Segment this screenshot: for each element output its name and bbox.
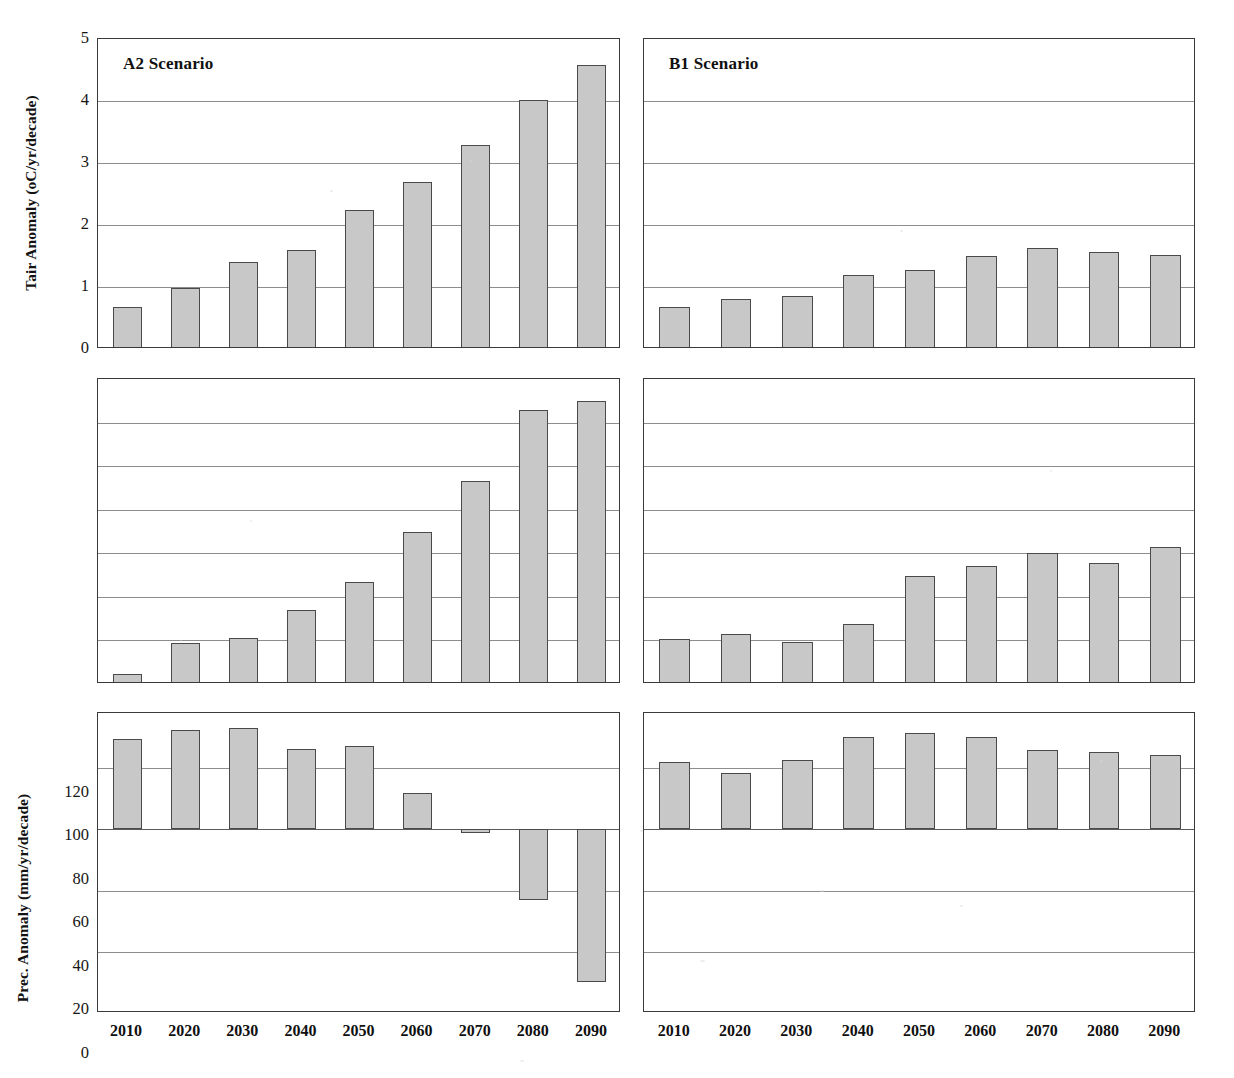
bar <box>721 773 752 829</box>
bar <box>843 275 874 348</box>
bar <box>113 739 142 830</box>
x-tick-label: 2030 <box>226 1022 258 1040</box>
bar <box>287 250 316 348</box>
bar <box>1089 752 1120 829</box>
bar <box>345 746 374 829</box>
bar <box>403 793 432 830</box>
bar-group-npp-b1 <box>644 713 1194 1011</box>
plot-panel-npp-b1 <box>643 712 1195 1012</box>
x-tick-label: 2040 <box>842 1022 874 1040</box>
x-tick-label: 2090 <box>1148 1022 1180 1040</box>
plot-panel-prec-b1 <box>643 378 1195 683</box>
bar <box>966 566 997 683</box>
x-tick-label: 2020 <box>719 1022 751 1040</box>
bar <box>403 532 432 684</box>
y-tick-label-tair: 5 <box>81 30 89 47</box>
bar <box>782 642 813 683</box>
x-tick-label: 2070 <box>459 1022 491 1040</box>
y-tick-label-tair: 2 <box>81 216 89 233</box>
bar <box>171 730 200 829</box>
bar <box>721 299 752 348</box>
bar-group-tair-b1 <box>644 39 1194 347</box>
bar <box>905 733 936 829</box>
bar <box>577 65 606 348</box>
x-tick-label: 2040 <box>284 1022 316 1040</box>
x-axis-ticks-left: 201020202030204020502060207020802090 <box>97 1022 620 1048</box>
bar <box>966 256 997 348</box>
bar <box>1027 553 1058 683</box>
bar <box>345 210 374 349</box>
x-tick-label: 2050 <box>903 1022 935 1040</box>
bar <box>721 634 752 683</box>
bar <box>659 307 690 348</box>
bar <box>519 100 548 348</box>
bar <box>905 576 936 683</box>
bar <box>782 760 813 829</box>
x-tick-label: 2050 <box>343 1022 375 1040</box>
plot-panel-prec-a2 <box>97 378 620 683</box>
bar <box>1150 255 1181 348</box>
scenario-label-b1: B1 Scenario <box>669 54 759 74</box>
bar <box>966 737 997 829</box>
x-tick-label: 2030 <box>780 1022 812 1040</box>
bar <box>1150 547 1181 683</box>
bar <box>171 288 200 348</box>
y-tick-label-tair: 3 <box>81 154 89 171</box>
bar <box>461 829 490 833</box>
x-tick-label: 2070 <box>1026 1022 1058 1040</box>
x-tick-label: 2090 <box>575 1022 607 1040</box>
bar <box>171 643 200 683</box>
bar-group-tair-a2 <box>98 39 619 347</box>
x-axis-ticks-right: 201020202030204020502060207020802090 <box>643 1022 1195 1048</box>
bar-group-prec-a2 <box>98 379 619 682</box>
x-tick-label: 2010 <box>110 1022 142 1040</box>
bar-group-prec-b1 <box>644 379 1194 682</box>
bar <box>229 638 258 683</box>
plot-panel-npp-a2 <box>97 712 620 1012</box>
bar <box>461 145 490 348</box>
bar <box>287 749 316 830</box>
y-tick-label-tair: 0 <box>81 340 89 357</box>
plot-panel-tair-a2 <box>97 38 620 348</box>
bar <box>905 270 936 348</box>
bar <box>577 829 606 982</box>
bar <box>461 481 490 683</box>
figure-canvas: Tair Anomaly (oC/yr/decade) 012345 A2 Sc… <box>0 0 1234 1078</box>
bar <box>1150 755 1181 830</box>
bar <box>843 624 874 683</box>
x-tick-label: 2060 <box>401 1022 433 1040</box>
x-tick-label: 2020 <box>168 1022 200 1040</box>
bar <box>1027 248 1058 348</box>
x-tick-label: 2080 <box>1087 1022 1119 1040</box>
bar <box>519 829 548 899</box>
bar <box>1089 563 1120 683</box>
scenario-label-a2: A2 Scenario <box>123 54 214 74</box>
x-tick-label: 2080 <box>517 1022 549 1040</box>
bar <box>519 410 548 684</box>
bar <box>113 307 142 348</box>
bar <box>229 262 258 348</box>
bar <box>577 401 606 683</box>
bar <box>782 296 813 348</box>
bar <box>403 182 432 348</box>
bar <box>843 737 874 829</box>
y-axis-title-tair: Tair Anomaly (oC/yr/decade) <box>22 38 40 348</box>
y-tick-label-tair: 1 <box>81 278 89 295</box>
bar <box>659 762 690 829</box>
bar <box>345 582 374 683</box>
x-tick-label: 2060 <box>964 1022 996 1040</box>
bar <box>1089 252 1120 348</box>
bar-group-npp-a2 <box>98 713 619 1011</box>
bar <box>659 639 690 683</box>
x-tick-label: 2010 <box>658 1022 690 1040</box>
bar <box>1027 750 1058 830</box>
y-tick-label-tair: 4 <box>81 92 89 109</box>
plot-panel-tair-b1 <box>643 38 1195 348</box>
bar <box>113 674 142 683</box>
bar <box>287 610 316 683</box>
bar <box>229 728 258 829</box>
